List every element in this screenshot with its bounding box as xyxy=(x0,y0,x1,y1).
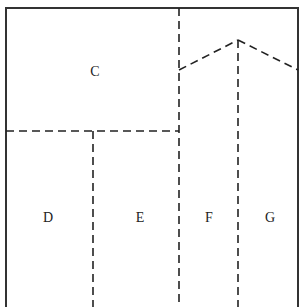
region-label-c: C xyxy=(90,64,99,79)
roof-left-slope xyxy=(179,40,238,70)
region-label-f: F xyxy=(205,210,213,225)
region-label-d: D xyxy=(43,210,53,225)
region-label-e: E xyxy=(136,210,145,225)
floor-plan-diagram: C D E F G xyxy=(0,0,301,307)
outer-frame xyxy=(6,8,298,307)
roof-right-slope xyxy=(238,40,298,70)
region-label-g: G xyxy=(265,210,275,225)
